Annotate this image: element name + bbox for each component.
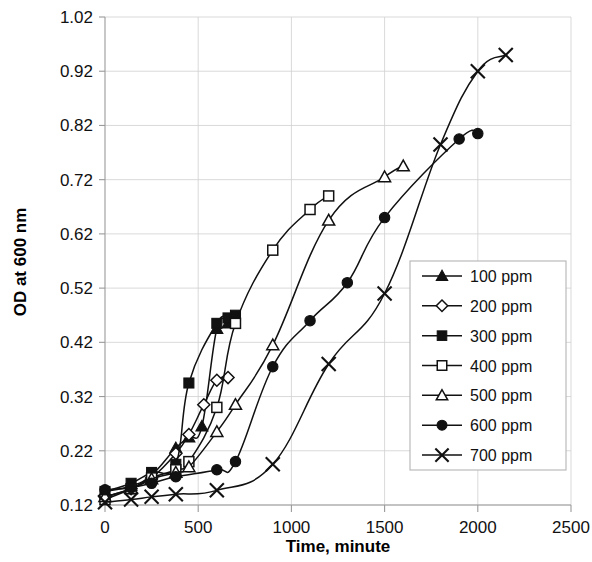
legend: 100 ppm200 ppm300 ppm400 ppm500 ppm600 p… <box>410 261 566 470</box>
open-square-marker <box>268 245 278 255</box>
data-point-marker <box>229 399 241 410</box>
data-point-marker <box>211 374 223 386</box>
filled-square-marker <box>437 331 447 341</box>
y-tick-label: 0.42 <box>60 333 93 352</box>
open-diamond-marker <box>198 399 210 411</box>
series-line <box>105 196 329 500</box>
filled-triangle-marker <box>196 420 208 431</box>
data-point-marker <box>210 483 224 497</box>
data-point-marker <box>212 318 222 328</box>
legend-item-label: 200 ppm <box>470 298 532 315</box>
filled-circle-marker <box>230 456 240 466</box>
legend-item-label: 700 ppm <box>470 447 532 464</box>
filled-circle-marker <box>379 212 389 222</box>
series-500-ppm <box>99 160 409 501</box>
data-point-marker <box>437 331 447 341</box>
data-point-marker <box>379 212 389 222</box>
open-triangle-marker <box>379 171 391 182</box>
x-tick-label: 1000 <box>272 518 310 537</box>
filled-square-marker <box>184 378 194 388</box>
y-axis-tick-labels: 0.120.220.320.420.520.620.720.820.921.02 <box>60 8 93 515</box>
data-point-marker <box>268 362 278 372</box>
open-triangle-marker <box>397 160 409 171</box>
chart-container: 0.120.220.320.420.520.620.720.820.921.02… <box>0 0 592 562</box>
data-point-marker <box>473 128 483 138</box>
open-square-marker <box>305 204 315 214</box>
open-diamond-marker <box>211 374 223 386</box>
legend-item-label: 600 ppm <box>470 417 532 434</box>
growth-curve-chart: 0.120.220.320.420.520.620.720.820.921.02… <box>0 0 592 562</box>
x-tick-label: 500 <box>184 518 212 537</box>
data-point-marker <box>171 472 181 482</box>
y-tick-label: 0.92 <box>60 62 93 81</box>
y-tick-label: 0.82 <box>60 116 93 135</box>
filled-circle-marker <box>342 277 352 287</box>
y-tick-label: 0.12 <box>60 496 93 515</box>
data-point-marker <box>499 48 513 62</box>
filled-square-marker <box>212 318 222 328</box>
x-axis-title: Time, minute <box>286 537 391 556</box>
y-tick-label: 0.72 <box>60 171 93 190</box>
data-point-marker <box>230 318 240 328</box>
filled-circle-marker <box>437 420 447 430</box>
legend-item-label: 100 ppm <box>470 268 532 285</box>
data-point-marker <box>397 160 409 171</box>
data-point-marker <box>434 137 448 151</box>
data-point-marker <box>305 315 315 325</box>
y-tick-label: 1.02 <box>60 8 93 27</box>
y-tick-label: 0.32 <box>60 388 93 407</box>
x-tick-label: 2000 <box>459 518 497 537</box>
x-tick-label: 0 <box>100 518 109 537</box>
data-point-marker <box>268 245 278 255</box>
legend-item-label: 300 ppm <box>470 328 532 345</box>
filled-circle-marker <box>100 485 110 495</box>
data-point-marker <box>126 482 136 492</box>
open-triangle-marker <box>323 214 335 225</box>
data-point-marker <box>322 357 336 371</box>
filled-circle-marker <box>454 134 464 144</box>
open-square-marker <box>212 402 222 412</box>
data-point-marker <box>198 399 210 411</box>
data-point-marker <box>100 485 110 495</box>
data-point-marker <box>146 478 156 488</box>
data-point-marker <box>184 378 194 388</box>
filled-circle-marker <box>146 478 156 488</box>
filled-circle-marker <box>212 465 222 475</box>
data-point-marker <box>266 457 280 471</box>
data-point-marker <box>379 171 391 182</box>
data-point-marker <box>323 214 335 225</box>
x-tick-label: 1500 <box>366 518 404 537</box>
data-point-marker <box>437 420 447 430</box>
data-point-marker <box>230 456 240 466</box>
open-triangle-marker <box>267 339 279 350</box>
filled-circle-marker <box>171 472 181 482</box>
data-point-marker <box>212 402 222 412</box>
filled-circle-marker <box>305 315 315 325</box>
data-point-marker <box>196 420 208 431</box>
y-tick-label: 0.52 <box>60 279 93 298</box>
y-tick-label: 0.22 <box>60 442 93 461</box>
x-axis-tick-labels: 05001000150020002500 <box>100 518 590 537</box>
filled-circle-marker <box>126 482 136 492</box>
legend-item-label: 400 ppm <box>470 358 532 375</box>
open-triangle-marker <box>229 399 241 410</box>
data-point-marker <box>324 191 334 201</box>
series-400-ppm <box>100 191 334 505</box>
data-point-marker <box>212 465 222 475</box>
data-point-marker <box>342 277 352 287</box>
y-tick-label: 0.62 <box>60 225 93 244</box>
filled-circle-marker <box>473 128 483 138</box>
y-axis-title: OD at 600 nm <box>11 208 30 317</box>
open-square-marker <box>230 318 240 328</box>
open-square-marker <box>437 361 447 371</box>
data-point-marker <box>267 339 279 350</box>
data-point-marker <box>305 204 315 214</box>
data-point-marker <box>454 134 464 144</box>
filled-circle-marker <box>268 362 278 372</box>
open-square-marker <box>324 191 334 201</box>
legend-item-label: 500 ppm <box>470 387 532 404</box>
x-tick-label: 2500 <box>552 518 590 537</box>
data-point-marker <box>437 361 447 371</box>
